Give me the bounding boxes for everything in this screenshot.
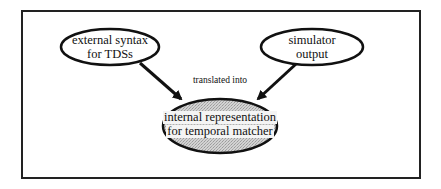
node-internal-representation: internal representation for temporal mat… — [163, 99, 277, 153]
node-simulator-output-line-2: output — [296, 47, 328, 61]
node-simulator-output-line-1: simulator — [288, 33, 336, 47]
edge-label-translated-into: translated into — [193, 75, 247, 85]
node-external-syntax: external syntax for TDSs — [61, 29, 159, 65]
node-external-syntax-line-2: for TDSs — [87, 47, 133, 61]
node-internal-representation-line-2: for temporal matcher — [167, 124, 273, 138]
node-external-syntax-line-1: external syntax — [72, 33, 149, 47]
diagram-canvas: translated into external syntax for TDSs… — [0, 0, 441, 189]
node-internal-representation-line-1: internal representation — [164, 110, 277, 124]
node-simulator-output: simulator output — [261, 29, 363, 65]
